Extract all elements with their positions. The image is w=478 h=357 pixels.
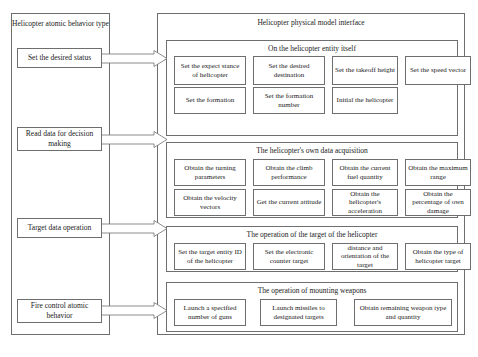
interface-method-label: Obtain the turning parameters [177,164,243,181]
interface-group-row: Set the expect stance of helicopterSet t… [167,56,457,86]
interface-method-box[interactable]: Get the current attitude [253,189,325,216]
interface-method-box[interactable]: Obtain remaining weapon type and quantit… [354,299,452,326]
interface-method-label: Set the electronic counter target [256,248,322,265]
interface-method-box[interactable]: Obtain the helicopter's acceleration [332,189,398,216]
left-behavior-box[interactable]: Read data for decision making [17,127,102,151]
left-behavior-box[interactable]: Fire control atomic behavior [17,299,102,323]
interface-group-title: The operation of the target of the helic… [167,230,457,240]
interface-method-label: Launch a specified number of guns [177,304,243,321]
interface-method-box[interactable]: Set the electronic counter target [253,243,325,270]
interface-method-box[interactable]: Obtain the type of helicopter target [405,243,471,270]
arrow-set-desired-status [102,50,168,67]
interface-group: The operation of the target of the helic… [166,226,458,272]
interface-method-box[interactable]: Obtain the turning parameters [174,159,246,186]
interface-method-label: Set the speed vector [410,66,466,75]
interface-method-box[interactable]: Obtain the current fuel quantity [332,159,398,186]
interface-method-label: Set the takeoff height [335,66,395,75]
interface-group: The helicopter's own data acquisitionObt… [166,142,458,218]
interface-group-row: Set the target entity ID of the helicopt… [167,242,457,272]
interface-group-row: Launch a specified number of gunsLaunch … [167,298,457,328]
interface-method-label: Obtain the climb performance [256,164,322,181]
interface-method-label: Set the formation number [256,92,322,109]
interface-method-box[interactable]: Set the desired destination [253,56,325,85]
interface-method-box[interactable]: Obtain the velocity vectors [174,189,246,216]
interface-group-title: On the helicopter entity itself [167,44,457,54]
interface-method-box[interactable]: Launch a specified number of guns [174,299,246,326]
interface-method-label: Set the desired destination [256,62,322,79]
interface-method-box[interactable]: distance and orientation of the target [332,243,398,270]
interface-method-box[interactable]: Set the formation number [253,87,325,114]
interface-group-row: Set the formationSet the formation numbe… [167,86,457,116]
left-behavior-box-label: Read data for decision making [18,129,101,149]
arrow-read-data [102,131,168,148]
interface-group-title: The operation of mounting weapons [167,286,457,296]
interface-method-label: Set the target entity ID of the helicopt… [177,248,243,265]
helicopter-model-diagram: Helicopter atomic behavior type Set the … [0,0,478,357]
right-panel-title: Helicopter physical model interface [158,18,464,28]
interface-group-title: The helicopter's own data acquisition [167,146,457,156]
left-behavior-box[interactable]: Set the desired status [17,48,102,68]
interface-method-label: distance and orientation of the target [335,244,395,270]
interface-group-row: Obtain the turning parametersObtain the … [167,158,457,188]
left-behavior-box-label: Target data operation [28,223,91,233]
arrow-target-data [102,220,168,237]
interface-method-label: Obtain the percentage of own damage [408,190,468,216]
helicopter-physical-model-interface-panel: Helicopter physical model interface On t… [157,13,465,335]
interface-method-label: Set the expect stance of helicopter [177,62,243,79]
arrow-fire-control [102,302,168,319]
interface-method-label: Obtain the maximum range [408,164,468,181]
interface-method-box[interactable]: Set the target entity ID of the helicopt… [174,243,246,270]
interface-method-label: Initial the helicopter [337,96,394,105]
interface-group: The operation of mounting weaponsLaunch … [166,282,458,332]
interface-method-label: Launch missiles to designated targets [263,304,334,321]
left-behavior-box[interactable]: Target data operation [17,218,102,238]
interface-method-label: Obtain remaining weapon type and quantit… [357,304,449,321]
interface-group: On the helicopter entity itselfSet the e… [166,40,458,136]
interface-method-label: Get the current attitude [257,198,322,207]
interface-method-label: Set the formation [186,96,235,105]
interface-method-box[interactable]: Set the takeoff height [332,56,398,85]
interface-method-label: Obtain the type of helicopter target [408,248,468,265]
left-behavior-box-label: Set the desired status [28,53,91,63]
interface-method-box[interactable]: Set the expect stance of helicopter [174,56,246,85]
interface-method-box[interactable]: Set the speed vector [405,56,471,85]
interface-method-label: Obtain the velocity vectors [177,194,243,211]
interface-method-box[interactable]: Obtain the percentage of own damage [405,189,471,216]
interface-method-label: Obtain the helicopter's acceleration [335,190,395,216]
interface-group-row: Obtain the velocity vectorsGet the curre… [167,188,457,218]
interface-method-box[interactable]: Set the formation [174,87,246,114]
interface-method-box[interactable]: Obtain the maximum range [405,159,471,186]
interface-method-box[interactable]: Obtain the climb performance [253,159,325,186]
left-panel-title: Helicopter atomic behavior type [12,19,109,29]
interface-method-box[interactable]: Initial the helicopter [332,87,398,114]
interface-method-box[interactable]: Launch missiles to designated targets [260,299,337,326]
interface-method-label: Obtain the current fuel quantity [335,164,395,181]
left-behavior-box-label: Fire control atomic behavior [18,301,101,321]
